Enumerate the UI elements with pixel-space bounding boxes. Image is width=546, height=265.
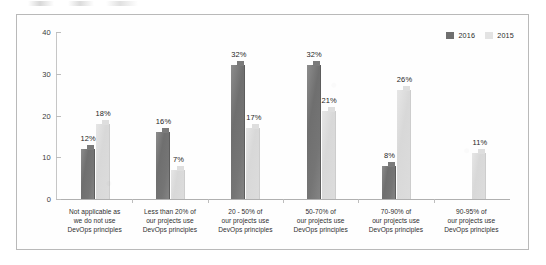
y-axis-tick-label: 20 — [25, 111, 51, 120]
category-label-line: our projects use — [126, 216, 213, 225]
y-axis-tick — [56, 199, 61, 200]
bar-value-label: 18% — [96, 109, 111, 118]
category-label-line: 70-90% of — [352, 207, 439, 216]
bar-value-label: 12% — [81, 134, 96, 143]
bar-2016-5[interactable] — [382, 166, 396, 199]
x-axis-category-label: 50-70% ofour projects useDevOps principl… — [277, 207, 364, 235]
x-axis-tick — [132, 199, 133, 203]
bar-2015-2[interactable] — [171, 170, 185, 199]
category-label-line: we do not use — [51, 216, 138, 225]
category-label-line: our projects use — [277, 216, 364, 225]
x-axis-tick — [283, 199, 284, 203]
bar-value-label: 32% — [231, 50, 246, 59]
x-axis-tick — [358, 199, 359, 203]
category-label-line: Not applicable as — [51, 207, 138, 216]
category-label-line: DevOps principles — [202, 225, 289, 234]
x-axis-tick — [208, 199, 209, 203]
bar-value-label: 7% — [173, 155, 184, 164]
category-label-line: our projects use — [428, 216, 515, 225]
category-label-line: DevOps principles — [277, 225, 364, 234]
bar-value-label: 8% — [384, 151, 395, 160]
plot-area: 12%18%16%7%32%17%32%21%8%26%11% — [57, 32, 509, 199]
y-axis-tick-label: 0 — [25, 195, 51, 204]
bar-2016-3[interactable] — [231, 65, 245, 199]
category-label-line: 50-70% of — [277, 207, 364, 216]
scan-artifact — [28, 1, 148, 6]
category-label-line: DevOps principles — [126, 225, 213, 234]
bar-value-label: 32% — [307, 50, 322, 59]
category-label-line: 90-95% of — [428, 207, 515, 216]
x-axis-category-label: 90-95% ofour projects useDevOps principl… — [428, 207, 515, 235]
y-axis-tick-label: 40 — [25, 28, 51, 37]
x-axis-tick — [434, 199, 435, 203]
bar-2015-5[interactable] — [397, 90, 411, 199]
bar-value-label: 16% — [156, 117, 171, 126]
bar-2015-1[interactable] — [96, 124, 110, 199]
category-label-line: DevOps principles — [428, 225, 515, 234]
bar-value-label: 11% — [472, 138, 487, 147]
bar-2015-6[interactable] — [472, 153, 486, 199]
category-label-line: Less than 20% of — [126, 207, 213, 216]
bar-2016-4[interactable] — [307, 65, 321, 199]
category-label-line: our projects use — [202, 216, 289, 225]
bar-value-label: 17% — [246, 113, 261, 122]
bar-value-label: 21% — [322, 96, 337, 105]
y-axis-tick-label: 30 — [25, 69, 51, 78]
bar-2016-1[interactable] — [81, 149, 95, 199]
x-axis-category-label: Not applicable aswe do not useDevOps pri… — [51, 207, 138, 235]
category-label-line: DevOps principles — [352, 225, 439, 234]
chart-figure-frame: 2016 2015 010203040 12%18%16%7%32%17%32%… — [16, 14, 529, 250]
bar-2015-4[interactable] — [322, 111, 336, 199]
x-axis-category-label: Less than 20% ofour projects useDevOps p… — [126, 207, 213, 235]
x-axis-category-label: 70-90% ofour projects useDevOps principl… — [352, 207, 439, 235]
y-axis-tick-label: 10 — [25, 153, 51, 162]
bar-2016-2[interactable] — [156, 132, 170, 199]
category-label-line: DevOps principles — [51, 225, 138, 234]
category-label-line: our projects use — [352, 216, 439, 225]
bar-value-label: 26% — [397, 75, 412, 84]
bar-2015-3[interactable] — [246, 128, 260, 199]
category-label-line: 20 - 50% of — [202, 207, 289, 216]
x-axis-category-label: 20 - 50% ofour projects useDevOps princi… — [202, 207, 289, 235]
